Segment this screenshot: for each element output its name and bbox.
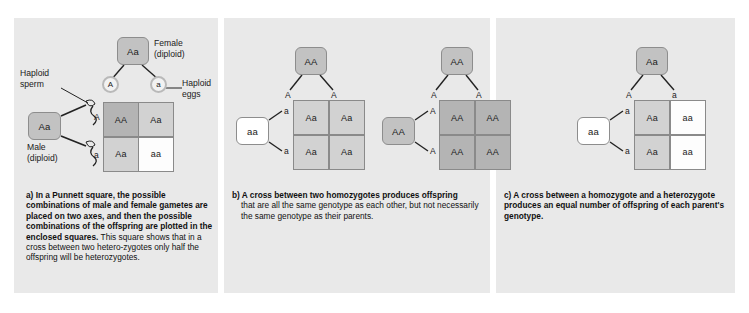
panel-b-cross-2-row-allele-2: A bbox=[430, 146, 436, 156]
panel-b-caption: b) A cross between two homozygotes produ… bbox=[232, 190, 486, 221]
panel-c-punnett-square: Aa aa Aa aa bbox=[634, 100, 706, 170]
panel-b-cross-1-top-parent: AA bbox=[295, 47, 327, 75]
panel-b-cross-1-cell-2: Aa bbox=[330, 101, 364, 134]
panel-a-cell-1: AA bbox=[104, 103, 138, 136]
male-parent-box: Aa bbox=[28, 112, 61, 140]
panel-b-cross-1-row-allele-2: a bbox=[284, 146, 289, 156]
panel-b-cross-1-cell-4: Aa bbox=[330, 136, 364, 169]
panel-a: Aa Female (diploid) A a Haploid eggs Aa … bbox=[14, 18, 218, 293]
egg-allele-a-text: a bbox=[156, 80, 160, 89]
panel-b-cross-2-top-parent: AA bbox=[441, 47, 473, 75]
panel-c-row-allele-2: a bbox=[625, 146, 630, 156]
panel-b-cross-1-punnett-square: Aa Aa Aa Aa bbox=[293, 100, 365, 170]
egg-allele-A: A bbox=[102, 76, 119, 93]
male-parent-genotype: Aa bbox=[38, 121, 50, 132]
panel-b: AA A A aa a a Aa Aa Aa Aa AA A A AA A bbox=[224, 18, 490, 293]
panel-b-cross-1-left-genotype: aa bbox=[247, 126, 258, 137]
female-diploid-label: Female (diploid) bbox=[154, 38, 185, 59]
panel-b-cross-1-cell-1: Aa bbox=[294, 101, 328, 134]
haploid-eggs-label: Haploid eggs bbox=[182, 78, 211, 99]
panel-b-cross-2-cell-3: AA bbox=[440, 136, 474, 169]
punnett-square-figure: Aa Female (diploid) A a Haploid eggs Aa … bbox=[0, 0, 749, 313]
panel-a-cell-2: Aa bbox=[139, 103, 173, 136]
panel-a-caption: a) In a Punnett square, the possible com… bbox=[26, 190, 216, 263]
panel-a-row-allele-1: A bbox=[94, 112, 100, 122]
panel-b-cross-1-row-allele-1: a bbox=[284, 106, 289, 116]
panel-c-left-parent: aa bbox=[577, 117, 610, 145]
panel-c-caption-bold: c) A cross between a homozygote and a he… bbox=[504, 190, 724, 221]
haploid-sperm-label: Haploid sperm bbox=[20, 68, 49, 89]
panel-c-col-allele-2: a bbox=[672, 90, 677, 100]
panel-c-caption: c) A cross between a homozygote and a he… bbox=[504, 190, 732, 221]
panel-b-cross-1-cell-3: Aa bbox=[294, 136, 328, 169]
panel-b-caption-rest: that are all the same genotype as each o… bbox=[232, 200, 486, 221]
panel-b-cross-2-left-parent: AA bbox=[382, 117, 415, 145]
panel-c-top-genotype: Aa bbox=[646, 56, 658, 67]
male-diploid-label: Male (diploid) bbox=[27, 142, 58, 163]
panel-b-cross-2-col-allele-2: A bbox=[476, 90, 482, 100]
panel-c: Aa A a aa a a Aa aa Aa aa c) A cross bet… bbox=[496, 18, 735, 293]
panel-b-cross-2-left-genotype: AA bbox=[392, 126, 405, 137]
panel-c-cell-1: Aa bbox=[635, 101, 669, 134]
panel-a-cell-4: aa bbox=[139, 138, 173, 171]
egg-allele-A-text: A bbox=[108, 80, 113, 89]
panel-b-caption-bold: b) A cross between two homozygotes produ… bbox=[232, 190, 458, 200]
panel-a-punnett-square: AA Aa Aa aa bbox=[103, 102, 174, 172]
female-parent-genotype: Aa bbox=[127, 46, 139, 57]
panel-a-row-allele-2: a bbox=[94, 150, 99, 160]
panel-c-cell-4: aa bbox=[671, 136, 705, 169]
panel-b-cross-2-cell-1: AA bbox=[440, 101, 474, 134]
panel-a-cell-3: Aa bbox=[104, 138, 138, 171]
panel-b-cross-1-top-genotype: AA bbox=[304, 56, 317, 67]
panel-c-top-parent: Aa bbox=[636, 47, 668, 75]
panel-b-cross-1-col-allele-1: A bbox=[285, 90, 291, 100]
panel-b-cross-2-row-allele-1: A bbox=[430, 106, 436, 116]
panel-c-cell-3: Aa bbox=[635, 136, 669, 169]
panel-b-cross-1-left-parent: aa bbox=[236, 117, 269, 145]
egg-allele-a: a bbox=[150, 76, 167, 93]
panel-c-left-genotype: aa bbox=[588, 126, 599, 137]
panel-b-cross-1-col-allele-2: A bbox=[331, 90, 337, 100]
panel-c-col-allele-1: A bbox=[626, 90, 632, 100]
panel-c-row-allele-1: a bbox=[625, 106, 630, 116]
panel-b-cross-2-top-genotype: AA bbox=[450, 56, 463, 67]
panel-c-cell-2: aa bbox=[671, 101, 705, 134]
panel-b-cross-2-col-allele-1: A bbox=[431, 90, 437, 100]
female-parent-box: Aa bbox=[117, 37, 149, 65]
